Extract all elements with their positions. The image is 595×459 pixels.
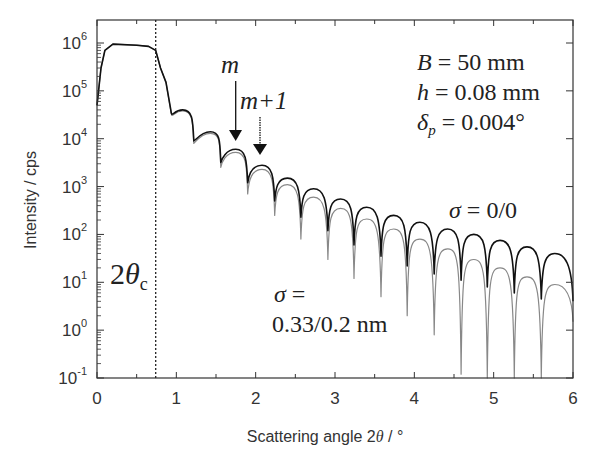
x-tick-label: 2: [251, 389, 260, 408]
y-tick-label: 100: [62, 317, 87, 340]
x-tick-labels: 0123456: [92, 389, 577, 408]
x-tick-label: 3: [330, 389, 339, 408]
annotation-m-plus-1: m+1: [240, 87, 287, 114]
y-tick-label: 105: [62, 78, 87, 101]
y-tick-label: 101: [62, 269, 87, 292]
y-tick-label: 104: [62, 126, 87, 149]
parameters-block: B = 50 mm h = 0.08 mm δp = 0.004°: [417, 49, 540, 138]
param-delta-p: δp = 0.004°: [417, 109, 525, 138]
y-tick-label: 102: [62, 221, 87, 244]
y-tick-label: 103: [62, 174, 87, 197]
y-tick-label: 10-1: [58, 365, 87, 388]
param-h: h = 0.08 mm: [417, 79, 540, 105]
legend-sigma-zero: σ = 0/0: [449, 197, 517, 223]
xrr-chart: 10-1100101102103104105106 0123456 Scatte…: [0, 0, 595, 459]
x-tick-label: 6: [568, 389, 577, 408]
x-tick-label: 5: [489, 389, 498, 408]
x-axis-title: Scattering angle 2θ / °: [247, 428, 404, 445]
y-tick-labels: 10-1100101102103104105106: [58, 30, 87, 388]
x-tick-label: 0: [92, 389, 101, 408]
annotation-m: m: [221, 51, 239, 78]
critical-angle-label: 2θc: [110, 257, 148, 294]
y-tick-label: 106: [62, 30, 87, 53]
arrow-m1-head-icon: [253, 144, 267, 155]
x-tick-label: 4: [410, 389, 419, 408]
legend-sigma-rough-line1: σ =: [274, 281, 305, 307]
x-tick-label: 1: [172, 389, 181, 408]
arrow-m-head-icon: [229, 130, 242, 141]
param-B: B = 50 mm: [417, 49, 525, 75]
y-axis-title: Intensity / cps: [22, 151, 39, 249]
legend-sigma-rough-line2: 0.33/0.2 nm: [272, 311, 388, 337]
